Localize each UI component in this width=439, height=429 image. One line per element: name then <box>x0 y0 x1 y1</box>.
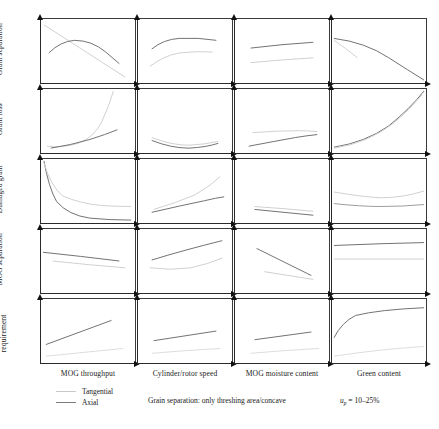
panel-mog-separation-green-content <box>331 228 427 294</box>
row-label-text: requirement <box>0 298 8 368</box>
figure-root: Grain separation Grain loss Damaged grai… <box>0 0 439 429</box>
row-label-damaged-grain: Damaged grain <box>0 154 4 224</box>
panel-grain-separation-mog-throughput <box>40 18 136 84</box>
panel-damaged-grain-mog-moisture-content <box>234 158 330 224</box>
panel-grain-separation-cylinder-rotor-speed <box>137 18 233 84</box>
panel-mog-separation-mog-throughput <box>40 228 136 294</box>
legend-item-tangential: Tangential <box>56 386 113 397</box>
panel-mog-separation-cylinder-rotor-speed <box>137 228 233 294</box>
col-label-mog-moisture-content: MOG moisture content <box>234 369 330 378</box>
legend-line-tangential-icon <box>56 391 76 392</box>
row-label-mog-separation: MOG separation <box>0 224 4 294</box>
plot-curves <box>332 89 426 153</box>
plot-curves <box>41 299 135 363</box>
panel-spec-power-requirement-green-content <box>331 298 427 364</box>
plot-curves <box>138 299 232 363</box>
plot-curves <box>138 229 232 293</box>
panel-grain-loss-green-content <box>331 88 427 154</box>
note-moisture-range: up = 10–25% <box>340 396 379 406</box>
plot-curves <box>41 159 135 223</box>
plot-curves <box>41 229 135 293</box>
panel-damaged-grain-green-content <box>331 158 427 224</box>
row-label-text: Grain separation <box>0 14 4 84</box>
plot-curves <box>332 159 426 223</box>
col-label-cylinder-rotor-speed: Cylinder/rotor speed <box>137 369 233 378</box>
plot-curves <box>138 19 232 83</box>
panel-spec-power-requirement-mog-throughput <box>40 298 136 364</box>
note-grain-separation: Grain separation: only threshing area/co… <box>148 396 286 405</box>
legend-item-axial: Axial <box>56 397 113 408</box>
col-label-text: Green content <box>357 369 401 378</box>
panel-grid <box>40 18 431 366</box>
col-label-green-content: Green content <box>331 369 427 378</box>
plot-curves <box>235 229 329 293</box>
note-value: = 10–25% <box>346 396 379 405</box>
panel-grain-loss-mog-moisture-content <box>234 88 330 154</box>
plot-curves <box>235 159 329 223</box>
col-label-text: MOG throughput <box>61 369 115 378</box>
legend: Tangential Axial <box>56 386 113 408</box>
legend-line-axial-icon <box>56 402 76 403</box>
plot-curves <box>235 299 329 363</box>
plot-curves <box>332 299 426 363</box>
panel-grain-separation-green-content <box>331 18 427 84</box>
plot-curves <box>235 89 329 153</box>
row-label-grain-loss: Grain loss <box>0 84 4 154</box>
plot-curves <box>138 159 232 223</box>
row-label-text: MOG separation <box>0 224 4 294</box>
col-label-text: Cylinder/rotor speed <box>153 369 218 378</box>
panel-grain-separation-mog-moisture-content <box>234 18 330 84</box>
row-label-spec-power-requirement: Spec. power requirement <box>0 298 8 368</box>
plot-curves <box>235 19 329 83</box>
plot-curves <box>41 89 135 153</box>
row-label-text: Damaged grain <box>0 154 4 224</box>
panel-grain-loss-mog-throughput <box>40 88 136 154</box>
plot-curves <box>138 89 232 153</box>
plot-curves <box>41 19 135 83</box>
plot-curves <box>332 229 426 293</box>
panel-spec-power-requirement-mog-moisture-content <box>234 298 330 364</box>
row-label-grain-separation: Grain separation <box>0 14 4 84</box>
col-label-text: MOG moisture content <box>246 369 318 378</box>
panel-damaged-grain-cylinder-rotor-speed <box>137 158 233 224</box>
legend-label-tangential: Tangential <box>82 386 113 397</box>
panel-mog-separation-mog-moisture-content <box>234 228 330 294</box>
panel-spec-power-requirement-cylinder-rotor-speed <box>137 298 233 364</box>
panel-grain-loss-cylinder-rotor-speed <box>137 88 233 154</box>
panel-damaged-grain-mog-throughput <box>40 158 136 224</box>
col-label-mog-throughput: MOG throughput <box>40 369 136 378</box>
plot-curves <box>332 19 426 83</box>
row-label-text: Grain loss <box>0 84 4 154</box>
legend-label-axial: Axial <box>82 397 98 408</box>
